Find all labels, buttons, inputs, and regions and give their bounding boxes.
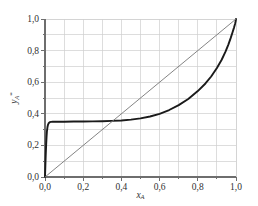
y-tick-label: 0,2	[27, 140, 39, 150]
y-axis-title-base: y	[9, 100, 19, 104]
vle-equilibrium-chart: 0,00,20,40,60,81,0 0,00,20,40,60,81,0 yA…	[0, 0, 258, 206]
y-axis-title-subscript: A	[13, 96, 20, 100]
x-axis-title: xA	[136, 190, 144, 200]
y-tick-label: 0,4	[27, 109, 39, 119]
x-tick-label: 1,0	[230, 182, 242, 192]
x-tick-label: 0,0	[39, 182, 51, 192]
y-tick-label: 1,0	[27, 14, 39, 24]
x-tick-label: 0,4	[115, 182, 127, 192]
y-axis-title: yA*	[8, 92, 19, 104]
y-tick-label: 0,6	[27, 77, 39, 87]
x-tick-label: 0,2	[77, 182, 89, 192]
y-tick-label: 0,8	[27, 46, 39, 56]
x-axis-title-subscript: A	[141, 193, 145, 200]
y-axis-title-superscript: *	[8, 92, 16, 96]
x-tick-label: 0,8	[192, 182, 204, 192]
y-tick-label: 0,0	[27, 172, 39, 182]
x-tick-label: 0,6	[154, 182, 166, 192]
